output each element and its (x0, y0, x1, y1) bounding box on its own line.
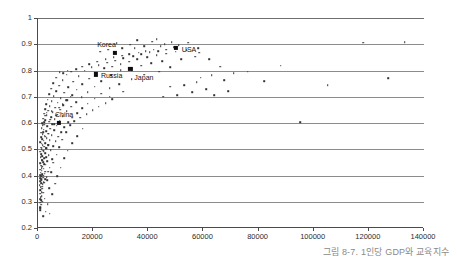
data-point (223, 80, 225, 82)
data-point (200, 77, 202, 79)
data-point (44, 124, 46, 126)
data-point (40, 163, 42, 165)
data-point (42, 124, 44, 126)
data-point (152, 41, 154, 43)
data-point (42, 131, 44, 133)
data-point (128, 61, 130, 63)
data-point (42, 215, 44, 217)
data-point (164, 43, 166, 45)
data-point (120, 63, 122, 65)
data-point (61, 139, 63, 141)
data-point (62, 79, 64, 81)
data-point (98, 106, 100, 108)
data-point (39, 207, 41, 209)
data-point (43, 151, 45, 153)
data-point (47, 204, 49, 206)
data-point (71, 94, 73, 96)
data-point (45, 119, 47, 121)
scatter-plot-area: KoreaUSARussiaJapanChina (37, 18, 423, 228)
data-point (101, 93, 103, 95)
data-point (44, 115, 46, 117)
x-tick-label-20000: 20000 (82, 232, 103, 241)
data-point (70, 71, 72, 73)
data-point (141, 53, 143, 55)
data-point (72, 81, 74, 83)
data-point (49, 140, 51, 142)
data-point (41, 188, 43, 190)
data-point (219, 66, 221, 68)
data-point (170, 67, 172, 69)
data-point (123, 58, 125, 60)
y-tick-label-0.8: 0.8 (0, 67, 32, 75)
data-point (64, 126, 66, 128)
data-point (156, 38, 158, 40)
data-point (130, 44, 132, 46)
data-point (46, 115, 48, 117)
data-point (70, 106, 72, 108)
y-tick-label-0.9: 0.9 (0, 40, 32, 48)
data-point (40, 165, 42, 167)
data-point (47, 144, 49, 146)
x-tick-label-0: 0 (35, 232, 39, 241)
data-point (60, 167, 62, 169)
data-point (48, 121, 50, 123)
x-tick-mark-20000 (92, 228, 93, 231)
data-point (45, 164, 47, 166)
data-point (76, 135, 78, 137)
data-point (55, 77, 57, 79)
data-point (181, 58, 183, 60)
y-tick-mark-0.4 (34, 176, 37, 177)
data-point (69, 124, 71, 126)
data-point (44, 173, 46, 175)
x-tick-mark-100000 (313, 228, 314, 231)
data-point (48, 154, 50, 156)
data-point (146, 56, 148, 58)
data-point (131, 79, 133, 81)
data-point (50, 88, 52, 90)
data-point (113, 57, 115, 59)
data-point (40, 141, 42, 143)
data-point (44, 164, 46, 166)
point-label-korea: Korea (97, 41, 116, 49)
data-point (92, 110, 94, 112)
data-point (75, 68, 77, 70)
data-point (387, 78, 389, 80)
data-point (84, 70, 86, 72)
point-label-russia: Russia (101, 72, 122, 80)
data-point (87, 103, 89, 105)
data-point (57, 136, 59, 138)
y-tick-label-0.2: 0.2 (0, 224, 32, 232)
data-point (56, 125, 58, 127)
data-point (75, 101, 77, 103)
data-point (62, 103, 64, 105)
data-point (53, 123, 55, 125)
data-point (66, 74, 68, 76)
data-point (47, 160, 49, 162)
data-point (233, 72, 235, 74)
data-point (45, 136, 47, 138)
data-point (40, 172, 42, 174)
data-point (327, 84, 329, 86)
figure-caption: 그림 8-7. 1인당 GDP와 교육지수 (323, 246, 449, 258)
data-point (76, 112, 78, 114)
data-point (183, 84, 185, 86)
data-point (161, 60, 163, 62)
data-point (58, 146, 60, 148)
data-point (178, 45, 180, 47)
data-point (68, 122, 70, 124)
data-point (67, 150, 69, 152)
y-tick-mark-0.7 (34, 97, 37, 98)
data-point (40, 137, 42, 139)
data-point (55, 90, 57, 92)
data-point (214, 94, 216, 96)
x-tick-label-120000: 120000 (355, 232, 380, 241)
data-point (197, 48, 199, 50)
data-point (116, 42, 118, 44)
data-point (96, 61, 98, 63)
data-point (52, 194, 54, 196)
gridline-y-0.3 (38, 202, 424, 203)
y-tick-mark-0.9 (34, 44, 37, 45)
data-point (211, 74, 213, 76)
x-tick-mark-120000 (368, 228, 369, 231)
data-point (53, 162, 55, 164)
